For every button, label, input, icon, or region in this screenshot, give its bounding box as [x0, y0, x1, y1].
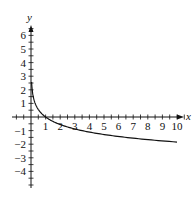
x-tick-label: 5 — [101, 120, 107, 132]
x-axis-label: x — [185, 110, 191, 122]
x-tick-label: 8 — [145, 120, 151, 132]
y-tick-label: −2 — [14, 138, 26, 150]
y-tick-label: 5 — [21, 43, 27, 55]
y-axis-label: y — [26, 11, 32, 23]
x-tick-label: 7 — [130, 120, 136, 132]
y-tick-label: 6 — [21, 29, 27, 41]
y-axis: −4−3−2−1123456 y — [14, 11, 33, 188]
y-tick-label: 3 — [21, 70, 27, 82]
y-tick-label: 4 — [21, 57, 27, 69]
x-tick-label: 9 — [160, 120, 166, 132]
x-tick-label: 1 — [43, 120, 49, 132]
y-tick-label: −4 — [14, 165, 26, 177]
y-tick-label: 2 — [21, 84, 27, 96]
x-axis: 12345678910 x — [12, 110, 191, 132]
x-tick-label: 10 — [172, 120, 184, 132]
curve-line — [32, 82, 177, 142]
chart: 12345678910 x −4−3−2−1123456 y — [0, 0, 196, 198]
x-tick-label: 6 — [116, 120, 122, 132]
plot-series — [32, 82, 177, 142]
x-tick-label: 3 — [72, 120, 78, 132]
x-axis-arrow-icon — [177, 115, 184, 120]
x-tick-label: 4 — [87, 120, 93, 132]
y-tick-label: −1 — [14, 125, 26, 137]
y-tick-label: −3 — [14, 152, 26, 164]
x-tick-label: 2 — [57, 120, 63, 132]
y-tick-label: 1 — [21, 97, 27, 109]
